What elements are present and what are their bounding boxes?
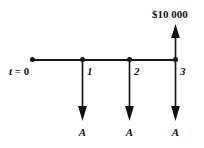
timeline-node-0 [30, 57, 35, 62]
timeline-axis-line [32, 59, 177, 61]
axis-origin-label: t = 0 [9, 66, 29, 77]
outflow-arrow-3 [169, 59, 182, 123]
inflow-amount-label: $10 000 [152, 9, 188, 20]
axis-start-value: 0 [24, 65, 30, 77]
outflow-label-2: A [123, 127, 136, 138]
outflow-label-3: A [169, 127, 182, 138]
outflow-label-1: A [76, 127, 89, 138]
cash-flow-timeline-diagram: t = 0 1 2 3 A A A $10 000 [0, 0, 204, 148]
outflow-arrow-2 [123, 59, 136, 123]
outflow-arrow-1 [76, 59, 89, 123]
inflow-arrow-3 [169, 24, 182, 61]
axis-variable-t: t [9, 65, 12, 77]
